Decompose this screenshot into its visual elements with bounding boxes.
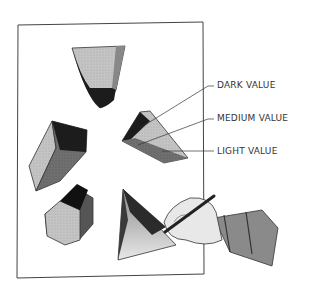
label-light-value: LIGHT VALUE [217, 146, 278, 156]
label-dark-value: DARK VALUE [217, 80, 276, 90]
label-medium-value: MEDIUM VALUE [217, 113, 288, 123]
